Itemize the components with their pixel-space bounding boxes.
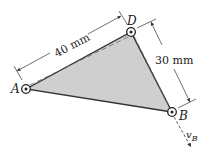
pin-A xyxy=(22,85,31,94)
dimension-label-DB: 30 mm xyxy=(155,54,194,67)
extension-line-D xyxy=(119,11,127,24)
point-label-B: B xyxy=(178,109,188,123)
extension-line-B xyxy=(178,99,196,108)
pin-B xyxy=(168,108,177,117)
dimension-line-AD-left xyxy=(17,53,50,71)
extension-line-A xyxy=(14,66,22,80)
pin-D xyxy=(127,28,136,37)
rigid-triangular-plate-diagram: 40 mm 30 mm vB A D B xyxy=(0,0,214,158)
dimension-line-DB-top xyxy=(151,22,162,45)
point-label-D: D xyxy=(126,14,137,28)
point-label-A: A xyxy=(10,82,20,96)
dimension-line-DB-bottom xyxy=(174,69,190,102)
triangular-plate xyxy=(26,32,172,112)
dimension-line-AD-right xyxy=(88,16,121,34)
diagram-canvas: 40 mm 30 mm vB A D B xyxy=(0,0,214,158)
